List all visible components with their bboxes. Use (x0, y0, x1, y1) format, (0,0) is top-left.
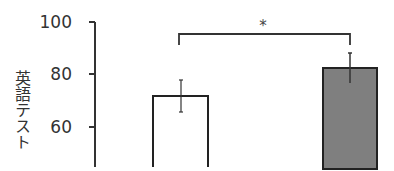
bar-2 (323, 68, 377, 169)
y-axis-label: 英語テスト (11, 70, 31, 150)
y-tick-label-100: 100 (40, 12, 72, 32)
bar-chart: 100 80 60 * (0, 0, 394, 171)
significance-bracket (179, 34, 350, 45)
y-tick-label-60: 60 (50, 117, 72, 137)
y-tick-label-80: 80 (50, 64, 72, 84)
significance-asterisk: * (259, 17, 267, 35)
